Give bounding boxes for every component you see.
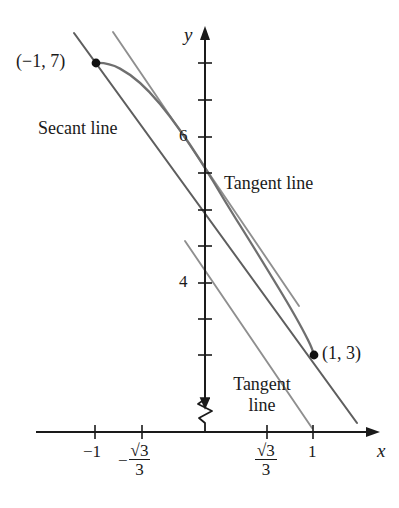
point-dot-right bbox=[310, 351, 319, 360]
x-axis-arrow bbox=[366, 427, 380, 437]
secant-line bbox=[74, 33, 357, 423]
fraction-neg-sqrt3-over-3: √33 bbox=[129, 442, 151, 478]
x-tick-label-neg-sqrt3-over-3: −√33 bbox=[118, 442, 150, 478]
x-tick-label-1: 1 bbox=[308, 443, 317, 460]
minus-sign: − bbox=[118, 452, 129, 469]
tangent-line-label-lower-line1: Tangent bbox=[233, 374, 291, 394]
tangent-line-label-lower-line2: line bbox=[249, 395, 276, 415]
point-dot-left bbox=[92, 59, 101, 68]
x-axis bbox=[36, 425, 380, 439]
tangent-line-label-upper: Tangent line bbox=[224, 174, 313, 192]
point-label-right: (1, 3) bbox=[322, 344, 361, 362]
y-axis-arrow bbox=[200, 26, 210, 40]
fraction-sqrt3-over-3: √33 bbox=[255, 442, 277, 478]
fraction-denominator: 3 bbox=[255, 460, 277, 478]
graph-canvas bbox=[0, 0, 399, 508]
tangent-line-label-lower: Tangent line bbox=[214, 374, 310, 415]
y-axis bbox=[198, 26, 212, 432]
y-axis-label: y bbox=[184, 25, 192, 44]
x-tick-label-sqrt3-over-3: √33 bbox=[255, 442, 277, 478]
y-axis-break-symbol bbox=[198, 399, 212, 432]
y-tick-label-6: 6 bbox=[179, 127, 188, 144]
y-tick-label-4: 4 bbox=[179, 273, 188, 290]
x-axis-label: x bbox=[377, 441, 385, 460]
x-tick-label-neg1: −1 bbox=[83, 443, 101, 460]
fraction-numerator: √3 bbox=[255, 442, 277, 460]
point-label-left: (−1, 7) bbox=[16, 52, 65, 70]
fraction-numerator: √3 bbox=[129, 442, 151, 460]
secant-line-label: Secant line bbox=[38, 119, 117, 137]
fraction-denominator: 3 bbox=[129, 460, 151, 478]
calculus-figure: (−1, 7) (1, 3) Secant line Tangent line … bbox=[0, 0, 399, 508]
